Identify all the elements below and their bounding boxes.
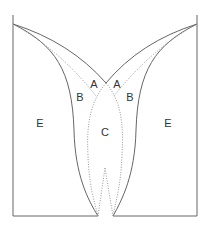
dotted-right-diagonal [114, 24, 197, 96]
dotted-left-diagonal [13, 24, 96, 96]
dotted-c-left-boundary [88, 83, 106, 216]
region-label-a-left: A [90, 79, 97, 90]
region-label-b-left: B [76, 92, 83, 103]
region-label-b-right: B [126, 92, 133, 103]
region-label-e-left: E [36, 118, 43, 129]
upper-right-solid-curve [106, 24, 197, 83]
region-label-c: C [101, 127, 109, 138]
dotted-c-right-boundary [106, 83, 122, 216]
region-label-e-right: E [164, 118, 171, 129]
upper-left-solid-curve [13, 24, 106, 83]
dotted-spike-right [105, 168, 113, 216]
region-label-a-right: A [113, 79, 120, 90]
outer-left-solid-curve [13, 24, 98, 216]
phase-diagram [0, 0, 207, 227]
dotted-spike-left [98, 168, 105, 216]
